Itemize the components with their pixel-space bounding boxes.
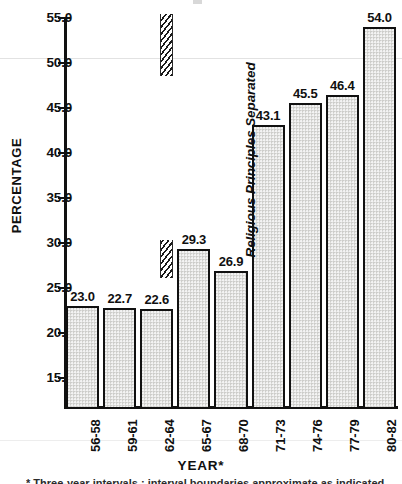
x-tick-label: 68-70 (237, 419, 250, 452)
annotation-label: Religious Principles Separated (243, 68, 258, 258)
clipped-top-mark (193, 0, 202, 4)
plot-area: 23.022.722.629.326.943.145.546.454.0 (64, 18, 398, 409)
bar (363, 27, 396, 409)
x-tick-label: 65-67 (200, 419, 213, 452)
x-tick-label: 59-61 (126, 419, 139, 452)
bar (326, 95, 359, 409)
bar-value-label: 29.3 (171, 233, 216, 246)
y-axis-title: PERCENTAGE (9, 126, 24, 246)
bar (214, 271, 247, 409)
bar-chart: 15.020.025.030.035.040.045.050.055.0 PER… (0, 0, 402, 484)
annotation-hatch-bar-bottom (160, 240, 173, 278)
x-tick-label: 74-76 (311, 419, 324, 452)
bar (289, 103, 322, 409)
x-tick-label: 71-73 (274, 419, 287, 452)
bar (66, 306, 99, 409)
bar (103, 308, 136, 409)
bar (177, 249, 210, 409)
x-tick-label: 77-79 (348, 419, 361, 452)
bar-value-label: 54.0 (357, 11, 402, 24)
annotation-hatch-bar-top (160, 14, 173, 76)
bar (140, 309, 173, 409)
x-axis-title: YEAR* (0, 458, 402, 473)
x-tick-label: 80-82 (385, 419, 398, 452)
x-tick-label: 56-58 (89, 419, 102, 452)
bar-value-label: 46.4 (320, 79, 365, 92)
chart-footnote: * Three-year intervals ; interval bounda… (26, 478, 386, 484)
x-tick-label: 62-64 (163, 419, 176, 452)
bar-value-label: 22.6 (134, 293, 179, 306)
